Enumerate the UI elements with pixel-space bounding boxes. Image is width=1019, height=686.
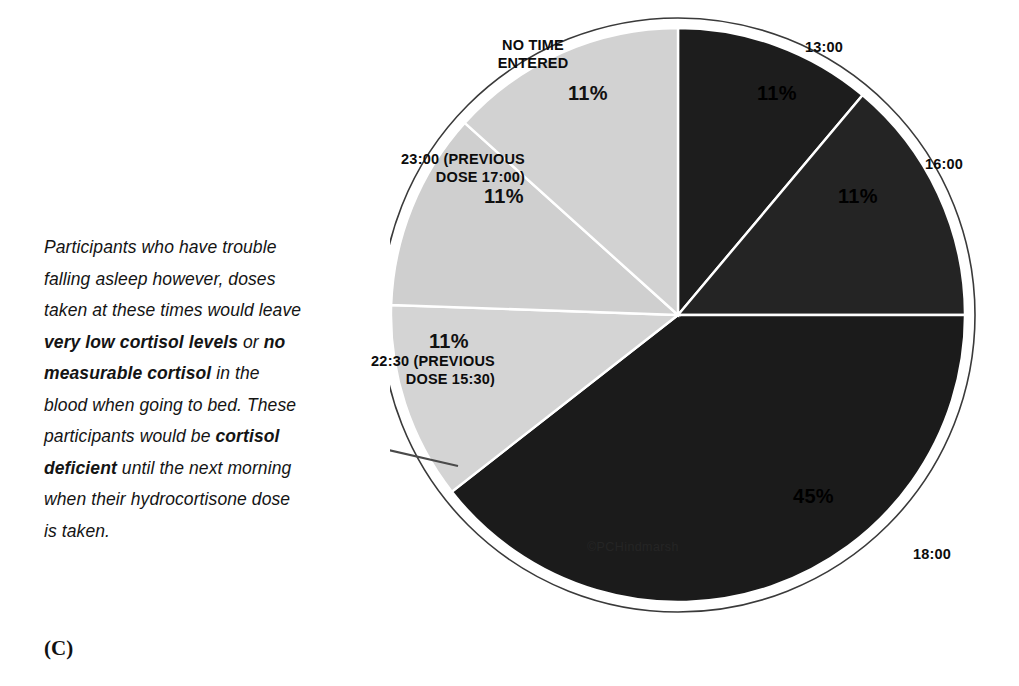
slice-value-13-00: 11% xyxy=(757,82,797,105)
watermark: ©PCHindmarsh xyxy=(587,540,679,554)
slice-value-23-00: 11% xyxy=(484,185,524,208)
slice-label-16-00: 16:00 xyxy=(925,155,963,173)
pie-chart-svg xyxy=(390,0,1019,686)
annotation-bold-very-low-cortisol-levels: very low cortisol levels xyxy=(44,332,238,352)
annotation-text: Participants who have trouble falling as… xyxy=(44,232,302,547)
slice-value-no-time-entered: 11% xyxy=(568,82,608,105)
slice-value-16-00: 11% xyxy=(838,185,878,208)
slice-label-no-time-entered: NO TIME ENTERED xyxy=(468,36,598,72)
slice-label-23-00: 23:00 (PREVIOUS DOSE 17:00) xyxy=(325,150,525,186)
pie-slices xyxy=(391,28,965,602)
pie-chart: ©PCHindmarsh 13:00 16:00 18:00 22:30 (PR… xyxy=(390,0,1019,686)
annotation-part-1: Participants who have trouble falling as… xyxy=(44,237,301,320)
slice-label-18-00: 18:00 xyxy=(913,545,951,563)
slice-value-18-00: 45% xyxy=(793,485,834,508)
panel-label: (C) xyxy=(44,636,73,661)
slice-label-13-00: 13:00 xyxy=(805,38,843,56)
slice-value-22-30: 11% xyxy=(429,330,469,353)
annotation-part-2: or xyxy=(238,332,264,352)
slice-label-22-30: 22:30 (PREVIOUS DOSE 15:30) xyxy=(295,352,495,388)
